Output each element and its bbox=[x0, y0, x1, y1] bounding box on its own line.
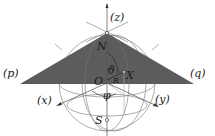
tick-left bbox=[55, 44, 62, 50]
south-label: S bbox=[95, 114, 103, 127]
x-axis-label: (x) bbox=[37, 94, 52, 107]
tick-right bbox=[152, 44, 159, 50]
x-axis-arrow bbox=[56, 102, 62, 106]
q-label: (q) bbox=[190, 67, 206, 80]
south-pole-point bbox=[105, 118, 108, 121]
phi-label: φ bbox=[103, 89, 111, 102]
point-x-label: X bbox=[125, 69, 135, 82]
p-label: (p) bbox=[3, 67, 19, 80]
sphere-diagram: (z) (p) (q) (x) (y) N S O X ϑ R φ bbox=[0, 0, 215, 136]
y-axis-label: (y) bbox=[155, 93, 170, 106]
z-axis-arrow bbox=[106, 3, 109, 8]
north-label: N bbox=[96, 40, 107, 53]
radius-label: R bbox=[112, 76, 119, 85]
point-x-marker bbox=[123, 71, 126, 74]
north-pole-point bbox=[105, 31, 108, 34]
z-axis-label: (z) bbox=[110, 11, 124, 24]
origin-label: O bbox=[94, 75, 103, 88]
